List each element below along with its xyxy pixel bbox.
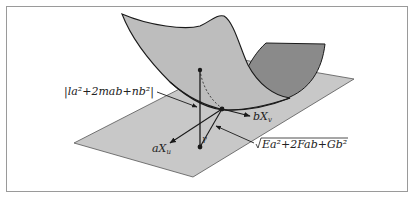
normal-top-point: [198, 68, 202, 72]
surface-diagram: γ |la²+2mab+nb²| aXu bXv Ea²+2Fab+Gb²: [0, 0, 416, 202]
label-second-form: |la²+2mab+nb²|: [64, 85, 154, 99]
label-first-form: Ea²+2Fab+Gb²: [261, 138, 347, 151]
angle-marker: γ: [202, 134, 207, 143]
